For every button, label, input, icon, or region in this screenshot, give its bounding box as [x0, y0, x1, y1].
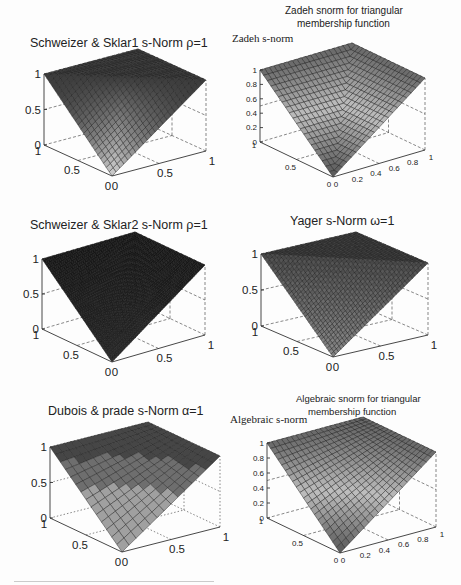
tick-label: 0.8	[246, 80, 258, 89]
tick-label: 0.5	[25, 104, 41, 116]
tick-label: 0.2	[253, 499, 265, 508]
tick-label: 1	[260, 439, 265, 448]
plot-title-zadeh-line1: Zadeh snorm for triangular	[285, 5, 403, 16]
tick-label: 1	[429, 153, 434, 162]
tick-label: 0.4	[379, 546, 391, 555]
plot-p5: 00.5100.5100.51	[31, 422, 229, 568]
tick-label: 0.5	[379, 350, 395, 362]
tick-label: 0.5	[169, 543, 185, 555]
tick-label: 0.5	[157, 167, 173, 179]
tick-label: 1	[252, 141, 257, 150]
tick-label: 0	[334, 180, 339, 189]
tick-label: 0	[122, 556, 128, 568]
surface-plots-canvas: 00.5100.5100.5100.20.40.60.8100.20.40.60…	[0, 0, 461, 585]
tick-label: 0	[105, 366, 111, 378]
tick-label: 0.5	[64, 164, 80, 176]
tick-label: 0.5	[23, 288, 39, 300]
plot-title-zadeh-line2: membership function	[297, 18, 390, 29]
tick-label: 1	[41, 441, 47, 453]
tick-label: 0.5	[31, 477, 47, 489]
plot-title-algebraic-line2: membership function	[308, 406, 396, 417]
tick-label: 0.6	[246, 95, 258, 104]
figure-caption-fragment	[14, 581, 214, 585]
side-label-zadeh: Zadeh s-norm	[232, 32, 293, 44]
tick-label: 0.8	[253, 454, 265, 463]
tick-label: 0	[333, 361, 339, 373]
plot-title-algebraic-line1: Algebraic snorm for triangular	[296, 393, 421, 404]
tick-label: 0	[112, 366, 118, 378]
tick-label: 0	[115, 556, 121, 568]
plot-p6: 00.20.40.60.8100.20.40.60.8100.51	[253, 417, 445, 565]
tick-label: 0.5	[292, 539, 304, 548]
tick-label: 1	[41, 518, 47, 530]
tick-label: 0	[341, 556, 346, 565]
tick-label: 1	[440, 530, 445, 539]
tick-label: 0.6	[398, 540, 410, 549]
side-label-algebraic: Algebraic s-norm	[230, 413, 307, 425]
plot-p3: 00.5100.5100.51	[23, 232, 214, 378]
tick-label: 0.5	[63, 349, 79, 361]
tick-label: 1	[35, 145, 41, 157]
tick-label: 0.5	[157, 352, 173, 364]
tick-label: 0	[112, 180, 118, 192]
tick-label: 1	[252, 248, 258, 260]
tick-label: 0.2	[352, 175, 364, 184]
tick-label: 1	[431, 339, 437, 351]
tick-label: 0.5	[283, 345, 299, 357]
plot-title-yager: Yager s-Norm ω=1	[290, 214, 394, 228]
tick-label: 0.5	[285, 163, 297, 172]
plot-p4: 00.5100.5100.51	[242, 232, 437, 373]
tick-label: 0.6	[253, 469, 265, 478]
tick-label: 0.2	[246, 123, 258, 132]
plot-p2: 00.20.40.60.8100.20.40.60.8100.51	[246, 43, 434, 189]
tick-label: 0.8	[417, 535, 429, 544]
plot-p1: 00.5100.5100.51	[25, 49, 215, 192]
tick-label: 1	[35, 68, 41, 80]
tick-label: 1	[259, 517, 264, 526]
tick-label: 0.5	[242, 284, 258, 296]
plot-title-schweizer-sklar1: Schweizer & Sklar1 s-Norm ρ=1	[30, 36, 208, 50]
tick-label: 0.2	[360, 551, 372, 560]
tick-label: 0.4	[370, 169, 382, 178]
plot-title-dubois-prade: Dubois & prade s-Norm α=1	[48, 404, 204, 418]
tick-label: 1	[223, 531, 229, 543]
tick-label: 1	[208, 339, 214, 351]
tick-label: 1	[209, 155, 215, 167]
tick-label: 1	[33, 253, 39, 265]
tick-label: 0.5	[72, 539, 88, 551]
tick-label: 0	[105, 180, 111, 192]
tick-label: 0.4	[253, 484, 265, 493]
tick-label: 1	[252, 326, 258, 338]
tick-label: 1	[253, 66, 258, 75]
plot-title-schweizer-sklar2: Schweizer & Sklar2 s-Norm ρ=1	[30, 218, 208, 232]
tick-label: 0	[326, 361, 332, 373]
tick-label: 0.4	[246, 109, 258, 118]
tick-label: 1	[33, 329, 39, 341]
tick-label: 0.6	[389, 164, 401, 173]
tick-label: 0	[327, 180, 332, 189]
tick-label: 0	[334, 556, 339, 565]
tick-label: 0.8	[407, 158, 419, 167]
